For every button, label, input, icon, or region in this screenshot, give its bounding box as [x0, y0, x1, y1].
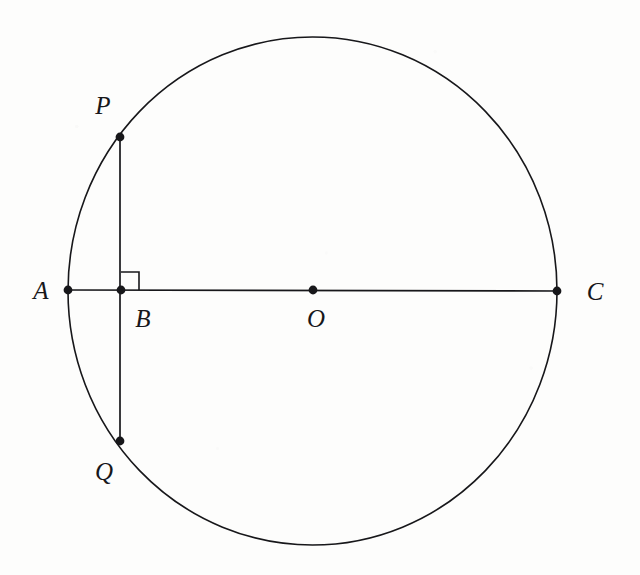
diagram-canvas — [0, 0, 640, 575]
point-label-a: A — [33, 278, 48, 303]
point-label-c: C — [587, 279, 604, 304]
point-dot-Q — [116, 437, 125, 446]
geometry-figure: A B C O P Q — [0, 0, 640, 575]
point-dot-P — [116, 133, 125, 142]
point-dot-C — [553, 287, 562, 296]
point-dot-A — [64, 286, 73, 295]
point-label-q: Q — [95, 459, 113, 484]
point-label-p: P — [95, 93, 110, 118]
point-label-b: B — [135, 306, 150, 331]
point-dot-O — [309, 286, 318, 295]
point-label-o: O — [307, 306, 325, 331]
point-dot-B — [117, 286, 126, 295]
